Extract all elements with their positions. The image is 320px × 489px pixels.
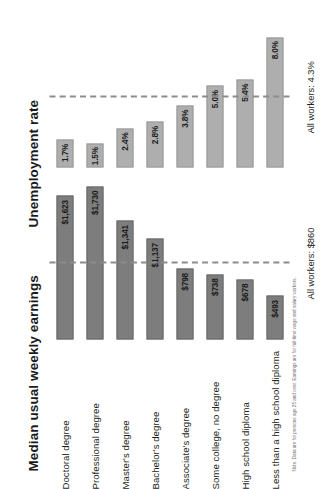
bar-row: $738: [202, 171, 228, 339]
earnings-panel-title: Median usual weekly earnings: [26, 275, 41, 471]
bar-row: 8.0%: [262, 17, 282, 167]
bar-value-label: $493: [270, 296, 279, 317]
category-axis: Doctoral degree Professional degree Mast…: [50, 339, 282, 489]
bar-value-label: 3.8%: [180, 106, 189, 127]
category-label: Bachelor's degree: [142, 339, 168, 489]
rotated-chart-wrapper: Median usual weekly earnings Unemploymen…: [20, 0, 282, 489]
bar-row: 1.7%: [52, 17, 78, 167]
unemployment-bar: 2.8%: [146, 121, 163, 167]
earnings-bar: $678: [236, 279, 253, 339]
earnings-reference-line: [50, 261, 282, 263]
unemployment-bar: 5.0%: [206, 85, 223, 167]
bar-row: 5.0%: [202, 17, 228, 167]
category-label: Professional degree: [82, 339, 108, 489]
category-label: Doctoral degree: [52, 339, 78, 489]
bar-row: $1,623: [52, 171, 78, 339]
education-pays-chart: Median usual weekly earnings Unemploymen…: [20, 0, 282, 489]
unemployment-bar: 1.7%: [56, 139, 73, 167]
earnings-panel: $1,623 $1,730 $1,341 $1,137 $798 $738 $6…: [50, 171, 282, 339]
bar-row: $1,730: [82, 171, 108, 339]
bar-value-label: $678: [240, 280, 249, 301]
bar-value-label: 5.4%: [240, 80, 249, 101]
bar-value-label: 1.5%: [90, 144, 99, 165]
earnings-bars: $1,623 $1,730 $1,341 $1,137 $798 $738 $6…: [50, 171, 282, 339]
earnings-bar: $798: [176, 268, 193, 339]
bar-row: 2.4%: [112, 17, 138, 167]
unemployment-panel: 1.7% 1.5% 2.4% 2.8% 3.8% 5.0% 5.4% 8.0% …: [50, 17, 282, 167]
bar-value-label: 2.8%: [150, 122, 159, 143]
unemployment-bar: 1.5%: [86, 143, 103, 167]
bar-value-label: $738: [210, 275, 219, 296]
bar-row: 5.4%: [232, 17, 258, 167]
category-label: Less than a high school diploma: [262, 339, 282, 489]
earnings-bar: $1,137: [146, 238, 163, 339]
earnings-bar: $493: [266, 295, 281, 339]
bar-value-label: $1,623: [60, 197, 69, 224]
unemployment-reference-line: [50, 95, 282, 97]
bar-row: 2.8%: [142, 17, 168, 167]
bar-row: $678: [232, 171, 258, 339]
bar-value-label: 1.7%: [60, 140, 69, 161]
earnings-bar: $1,623: [56, 196, 73, 340]
bar-row: $798: [172, 171, 198, 339]
bar-row: 1.5%: [82, 17, 108, 167]
bar-row: $1,137: [142, 171, 168, 339]
unemployment-bars: 1.7% 1.5% 2.4% 2.8% 3.8% 5.0% 5.4% 8.0%: [50, 17, 282, 167]
category-label: Master's degree: [112, 339, 138, 489]
unemployment-bar: 3.8%: [176, 105, 193, 167]
category-label: Some college, no degree: [202, 339, 228, 489]
bar-row: $493: [262, 171, 282, 339]
bar-row: 3.8%: [172, 17, 198, 167]
unemployment-bar: 8.0%: [266, 37, 281, 167]
bar-value-label: 2.4%: [120, 129, 129, 150]
unemployment-bar: 5.4%: [236, 79, 253, 167]
bar-value-label: 8.0%: [270, 38, 279, 59]
unemployment-panel-title: Unemployment rate: [26, 99, 41, 227]
earnings-bar: $1,341: [116, 220, 133, 339]
bar-row: $1,341: [112, 171, 138, 339]
unemployment-bar: 2.4%: [116, 128, 133, 167]
bar-value-label: $798: [180, 269, 189, 290]
category-label: Associate's degree: [172, 339, 198, 489]
bar-value-label: $1,341: [120, 221, 129, 248]
earnings-bar: $738: [206, 274, 223, 339]
category-label: High school diploma: [232, 339, 258, 489]
bar-value-label: $1,730: [90, 187, 99, 214]
